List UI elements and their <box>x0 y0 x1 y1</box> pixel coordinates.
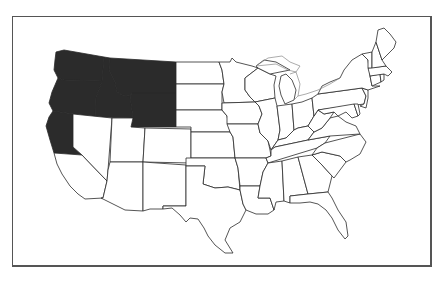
state-south-dakota[interactable]: South Dakota <box>176 84 224 110</box>
state-washington[interactable]: Washington <box>54 50 104 81</box>
state-montana[interactable]: Montana <box>109 58 176 96</box>
us-map: Washington Oregon Idaho Montana Wyoming … <box>0 0 438 281</box>
state-kansas[interactable]: Kansas <box>191 132 235 158</box>
state-new-mexico[interactable]: New Mexico <box>143 162 186 211</box>
state-rhode-island[interactable]: Rhode Island <box>380 74 384 82</box>
state-iowa[interactable]: Iowa <box>222 102 262 124</box>
state-colorado[interactable]: Colorado <box>143 128 191 163</box>
state-oregon[interactable]: Oregon <box>49 78 102 117</box>
state-wyoming[interactable]: Wyoming <box>130 93 176 127</box>
state-north-dakota[interactable]: North Dakota <box>176 62 224 84</box>
state-florida[interactable]: Florida <box>290 192 348 239</box>
